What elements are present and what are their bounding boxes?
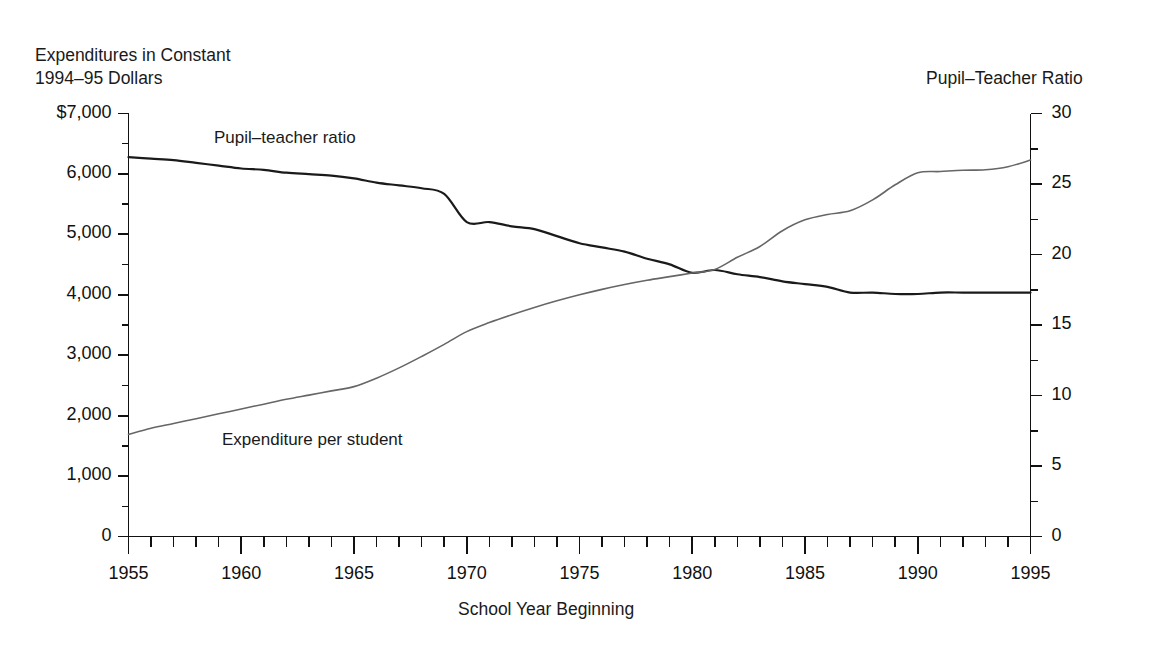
- chart-figure: Expenditures in Constant1994–95 Dollars …: [0, 0, 1174, 654]
- x-axis-tick-label: 1980: [652, 563, 732, 584]
- x-axis-tick-label: 1995: [991, 563, 1071, 584]
- series-line-pupil-teacher-ratio: [129, 157, 1031, 294]
- right-axis-tick-label: 10: [1052, 384, 1112, 405]
- left-axis-tick-label: $7,000: [22, 102, 112, 123]
- left-axis-tick-label: 1,000: [22, 464, 112, 485]
- right-axis-tick-label: 5: [1052, 454, 1112, 475]
- left-axis-tick-label: 5,000: [22, 222, 112, 243]
- left-axis-tick-label: 0: [22, 525, 112, 546]
- x-axis-tick-label: 1965: [314, 563, 394, 584]
- right-axis-tick-label: 20: [1052, 243, 1112, 264]
- plot-area: [0, 0, 1174, 654]
- x-axis-tick-label: 1970: [427, 563, 507, 584]
- left-axis-tick-label: 2,000: [22, 404, 112, 425]
- right-axis-tick-label: 25: [1052, 172, 1112, 193]
- x-axis-tick-label: 1960: [201, 563, 281, 584]
- x-axis-tick-label: 1985: [765, 563, 845, 584]
- right-axis-tick-label: 30: [1052, 102, 1112, 123]
- series-group: [129, 157, 1031, 434]
- x-axis-tick-label: 1990: [878, 563, 958, 584]
- left-axis-tick-label: 3,000: [22, 343, 112, 364]
- right-axis-tick-label: 0: [1052, 525, 1112, 546]
- x-axis-tick-label: 1955: [89, 563, 169, 584]
- left-axis-tick-label: 6,000: [22, 162, 112, 183]
- x-axis-tick-label: 1975: [540, 563, 620, 584]
- left-axis-tick-label: 4,000: [22, 283, 112, 304]
- series-line-expenditure-per-student: [129, 160, 1031, 434]
- right-axis-tick-label: 15: [1052, 313, 1112, 334]
